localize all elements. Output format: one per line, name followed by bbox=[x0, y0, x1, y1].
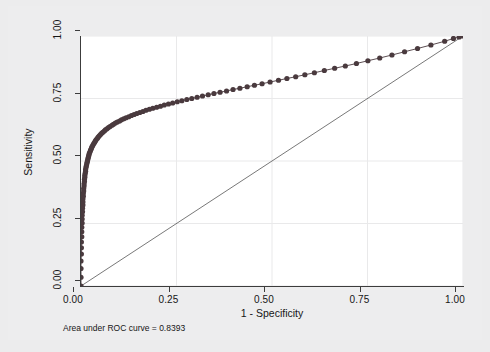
x-axis-line bbox=[80, 286, 464, 287]
x-axis-title: 1 - Specificity bbox=[81, 307, 463, 319]
x-axis-tick bbox=[264, 287, 265, 292]
x-axis-tick-label: 0.75 bbox=[330, 294, 390, 305]
y-axis-tick bbox=[75, 280, 80, 281]
y-axis-tick bbox=[75, 30, 80, 31]
x-axis-tick bbox=[455, 287, 456, 292]
y-axis-tick-label: 0.25 bbox=[52, 201, 63, 233]
roc-chart-image: 0.000.250.500.751.000.000.250.500.751.00… bbox=[0, 0, 490, 352]
x-axis-tick bbox=[360, 287, 361, 292]
x-axis-tick-label: 0.00 bbox=[43, 294, 103, 305]
plot-canvas bbox=[81, 36, 463, 286]
x-axis-tick-label: 0.25 bbox=[139, 294, 199, 305]
y-axis-tick-label: 0.75 bbox=[52, 76, 63, 108]
y-axis-tick-label: 0.00 bbox=[52, 264, 63, 296]
y-axis-tick bbox=[75, 218, 80, 219]
y-axis-tick bbox=[75, 93, 80, 94]
y-axis-tick bbox=[75, 155, 80, 156]
y-axis-title: Sensitivity bbox=[22, 102, 34, 202]
y-axis-tick-label: 1.00 bbox=[52, 14, 63, 46]
plot-panel bbox=[81, 36, 463, 286]
x-axis-tick bbox=[169, 287, 170, 292]
x-axis-tick-label: 0.50 bbox=[234, 294, 294, 305]
y-axis-tick-label: 0.50 bbox=[52, 139, 63, 171]
x-axis-tick-label: 1.00 bbox=[425, 294, 485, 305]
graph-region: 0.000.250.500.751.000.000.250.500.751.00… bbox=[8, 6, 482, 340]
auc-annotation: Area under ROC curve = 0.8393 bbox=[63, 323, 185, 333]
x-axis-tick bbox=[73, 287, 74, 292]
y-axis-line bbox=[80, 36, 81, 287]
